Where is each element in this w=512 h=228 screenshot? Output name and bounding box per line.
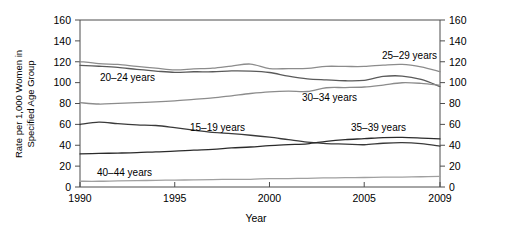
y-tick-label-right: 60 <box>449 118 461 130</box>
y-tick-label-right: 140 <box>449 35 467 47</box>
y-tick-label-left: 160 <box>53 14 71 26</box>
y-tick-label-left: 0 <box>65 181 71 193</box>
rate-by-age-line-chart: Rate per 1,000 Women in Specified Age Gr… <box>0 0 512 228</box>
y-tick-label-left: 80 <box>59 97 71 109</box>
x-tick-label: 1990 <box>68 192 92 204</box>
y-tick-label-right: 40 <box>449 139 461 151</box>
y-tick-label-right: 100 <box>449 76 467 88</box>
y-tick-label-left: 60 <box>59 118 71 130</box>
x-tick-label: 2009 <box>428 192 452 204</box>
y-tick-label-left: 140 <box>53 35 71 47</box>
x-axis-title: Year <box>245 212 267 224</box>
series-label-15-19-years: 15–19 years <box>190 122 245 133</box>
x-tick-label: 2005 <box>353 192 377 204</box>
series-label-25-29-years: 25–29 years <box>382 50 437 61</box>
y-tick-label-right: 160 <box>449 14 467 26</box>
y-tick-label-right: 0 <box>449 181 455 193</box>
y-tick-label-right: 120 <box>449 56 467 68</box>
y-tick-label-right: 20 <box>449 160 461 172</box>
series-label-40-44-years: 40–44 years <box>97 167 152 178</box>
y-tick-label-left: 100 <box>53 76 71 88</box>
x-tick-label: 1995 <box>163 192 187 204</box>
series-label-30-34-years: 30–34 years <box>302 92 357 103</box>
y-axis-title: Rate per 1,000 Women in Specified Age Gr… <box>13 50 36 158</box>
x-tick-label: 2000 <box>258 192 282 204</box>
y-axis-title-line2: Specified Age Group <box>25 60 36 147</box>
y-axis-title-line1: Rate per 1,000 Women in <box>13 50 24 158</box>
series-label-20-24-years: 20–24 years <box>100 72 155 83</box>
y-tick-label-right: 80 <box>449 97 461 109</box>
y-tick-label-left: 120 <box>53 56 71 68</box>
y-tick-label-left: 40 <box>59 139 71 151</box>
chart-figure: Rate per 1,000 Women in Specified Age Gr… <box>0 0 512 228</box>
y-tick-label-left: 20 <box>59 160 71 172</box>
series-label-35-39-years: 35–39 years <box>351 122 406 133</box>
